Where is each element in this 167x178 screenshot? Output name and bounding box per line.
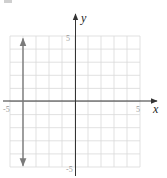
tick-label-y-min: -5 bbox=[66, 165, 73, 174]
y-axis-label: y bbox=[80, 11, 87, 25]
tick-label-y-max: 5 bbox=[66, 34, 70, 43]
coordinate-plane: 5 -5 -5 5 x y bbox=[0, 0, 167, 178]
tick-label-x-min: -5 bbox=[3, 105, 10, 114]
x-axis-label: x bbox=[152, 102, 159, 116]
tick-label-x-max: 5 bbox=[136, 105, 140, 114]
